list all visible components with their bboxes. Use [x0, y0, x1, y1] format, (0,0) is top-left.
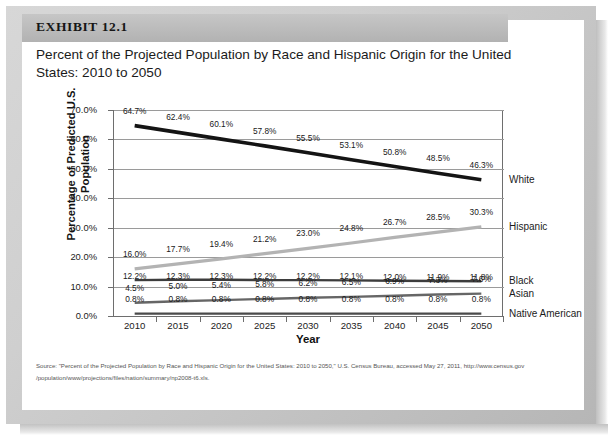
data-label: 12.3%: [166, 271, 190, 281]
y-tick-label: 70.0%: [70, 104, 97, 115]
data-label: 50.8%: [383, 147, 407, 157]
data-label: 0.8%: [255, 294, 274, 304]
data-label: 6.5%: [342, 277, 361, 287]
source-line-2: /population/www/projections/files/nation…: [36, 374, 209, 381]
data-label: 30.3%: [470, 207, 494, 217]
y-tick-mark: [108, 257, 113, 258]
data-label: 4.5%: [125, 283, 144, 293]
data-label: 26.7%: [383, 217, 407, 227]
data-label: 23.0%: [296, 228, 320, 238]
data-label: 46.3%: [470, 160, 494, 170]
series-label-black: Black: [509, 275, 533, 286]
data-label: 0.8%: [125, 294, 144, 304]
data-label: 57.8%: [253, 126, 277, 136]
data-label: 16.0%: [123, 249, 147, 259]
data-label: 64.7%: [123, 106, 147, 116]
data-label: 24.8%: [340, 223, 364, 233]
data-label: 17.7%: [166, 244, 190, 254]
data-label: 0.8%: [212, 294, 231, 304]
data-label: 12.2%: [123, 271, 147, 281]
data-label: 55.5%: [296, 133, 320, 143]
y-tick-label: 30.0%: [70, 222, 97, 233]
x-tick-mark: [503, 316, 504, 322]
exhibit-page: EXHIBIT 12.1 Percent of the Projected Po…: [0, 0, 614, 442]
x-tick-label: 2010: [113, 320, 157, 331]
data-label: 0.8%: [342, 294, 361, 304]
data-label: 0.8%: [385, 294, 404, 304]
data-label: 53.1%: [340, 140, 364, 150]
x-tick-label: 2050: [459, 320, 503, 331]
data-label: 19.4%: [210, 239, 234, 249]
y-tick-mark: [108, 228, 113, 229]
x-tick-label: 2040: [373, 320, 417, 331]
source-line-1: Source: "Percent of the Projected Popula…: [36, 362, 524, 369]
series-label-asian: Asian: [509, 288, 534, 299]
x-tick-label: 2045: [416, 320, 460, 331]
x-tick-label: 2025: [243, 320, 287, 331]
x-tick-label: 2030: [286, 320, 330, 331]
data-label: 5.4%: [212, 280, 231, 290]
y-tick-label: 60.0%: [70, 133, 97, 144]
data-label: 7.6%: [472, 274, 491, 284]
y-tick-mark: [108, 198, 113, 199]
y-tick-mark: [108, 287, 113, 288]
x-tick-label: 2020: [199, 320, 243, 331]
data-label: 48.5%: [426, 153, 450, 163]
y-tick-label: 50.0%: [70, 163, 97, 174]
data-label: 0.8%: [472, 294, 491, 304]
y-tick-label: 0.0%: [76, 310, 97, 321]
source-note: Source: "Percent of the Projected Popula…: [36, 360, 564, 383]
data-label: 21.2%: [253, 234, 277, 244]
data-label: 5.8%: [255, 279, 274, 289]
data-label: 0.8%: [429, 294, 448, 304]
x-axis-line: [113, 316, 504, 317]
data-label: 7.3%: [429, 275, 448, 285]
series-label-native-american: Native American: [509, 308, 582, 319]
x-tick-label: 2015: [156, 320, 200, 331]
series-label-white: White: [509, 174, 535, 185]
y-tick-label: 10.0%: [70, 281, 97, 292]
data-label: 28.5%: [426, 212, 450, 222]
y-tick-label: 40.0%: [70, 192, 97, 203]
y-tick-mark: [108, 169, 113, 170]
data-label: 0.8%: [299, 294, 318, 304]
y-tick-mark: [108, 316, 113, 317]
y-tick-mark: [108, 110, 113, 111]
data-label: 60.1%: [210, 119, 234, 129]
x-tick-label: 2035: [329, 320, 373, 331]
series-label-hispanic: Hispanic: [509, 221, 547, 232]
data-label: 62.4%: [166, 112, 190, 122]
data-label: 5.0%: [169, 281, 188, 291]
x-axis-title: Year: [113, 333, 503, 345]
data-label: 6.2%: [299, 278, 318, 288]
y-tick-label: 20.0%: [70, 251, 97, 262]
y-tick-mark: [108, 139, 113, 140]
data-label: 0.8%: [169, 294, 188, 304]
data-label: 6.9%: [385, 276, 404, 286]
